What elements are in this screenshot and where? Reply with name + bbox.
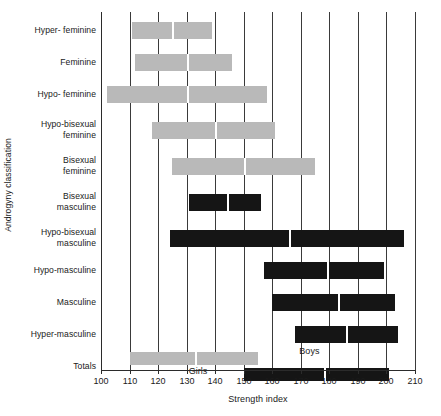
x-tick-label-170: 170 (293, 376, 308, 386)
x-tick-label-150: 150 (236, 376, 251, 386)
x-tick-label-200: 200 (378, 376, 393, 386)
x-tick-label-140: 140 (207, 376, 222, 386)
bar-girls-hypo-bisexual-feminine (152, 122, 275, 139)
x-tick-label-110: 110 (123, 376, 137, 386)
x-tick-label-130: 130 (179, 376, 194, 386)
bar-median-split (215, 122, 217, 139)
category-label: Bisexualmasculine (14, 191, 96, 212)
category-label: Hypo- feminine (14, 89, 96, 100)
x-tick-120 (158, 370, 159, 374)
x-tick-170 (301, 370, 302, 374)
x-tick-140 (215, 370, 216, 374)
x-tick-110 (130, 370, 131, 374)
x-tick-150 (244, 370, 245, 374)
gridline-200 (386, 12, 387, 370)
x-tick-label-180: 180 (321, 376, 336, 386)
bar-median-split (289, 230, 291, 247)
category-label: Hypo-bisexualfeminine (14, 119, 96, 140)
bar-girls-feminine (135, 54, 232, 71)
gridline-150 (244, 12, 245, 370)
bar-boys-masculine (272, 294, 395, 311)
bar-median-split (187, 86, 189, 103)
gridline-190 (358, 12, 359, 370)
bar-median-split (338, 294, 340, 311)
bar-median-split (187, 54, 189, 71)
gridline-180 (329, 12, 330, 370)
bar-median-split (346, 326, 348, 343)
category-label: Feminine (14, 57, 96, 68)
x-axis-rule (101, 370, 415, 371)
x-tick-130 (187, 370, 188, 374)
gridline-210 (415, 12, 416, 370)
gridline-170 (301, 12, 302, 370)
x-tick-100 (101, 370, 102, 374)
x-tick-200 (386, 370, 387, 374)
bar-median-split (195, 352, 197, 365)
bar-median-split (172, 22, 174, 39)
category-label: Hypo-bisexualmasculine (14, 227, 96, 248)
x-tick-label-100: 100 (93, 376, 108, 386)
x-tick-label-120: 120 (150, 376, 165, 386)
x-axis: 100110120130140150160170180190200210 Str… (101, 370, 415, 416)
bar-boys-hypo-masculine (264, 262, 384, 279)
category-label: Hypo-masculine (14, 265, 96, 276)
x-axis-title: Strength index (101, 394, 415, 404)
x-tick-190 (358, 370, 359, 374)
category-axis-labels: Hyper- feminineFeminineHypo- feminineHyp… (14, 12, 96, 370)
x-tick-label-160: 160 (264, 376, 279, 386)
series-tag-boys: Boys (299, 346, 319, 356)
bar-median-split (244, 158, 246, 175)
gridline-110 (130, 12, 131, 370)
y-axis-line (101, 12, 102, 370)
bar-boys-bisexual-masculine (189, 194, 260, 211)
x-tick-160 (272, 370, 273, 374)
bar-girls-hypo-feminine (107, 86, 267, 103)
bar-girls-bisexual-feminine (172, 158, 315, 175)
bar-median-split (227, 194, 229, 211)
category-label: Totals (14, 361, 96, 372)
x-tick-210 (415, 370, 416, 374)
x-tick-label-210: 210 (407, 376, 422, 386)
plot-area: GirlsBoys (101, 12, 415, 370)
category-label: Hyper-masculine (14, 329, 96, 340)
gridline-160 (272, 12, 273, 370)
x-tick-label-190: 190 (350, 376, 365, 386)
category-label: Masculine (14, 297, 96, 308)
bar-median-split (327, 262, 329, 279)
x-tick-180 (329, 370, 330, 374)
y-axis-title-text: Androgyny classification (3, 138, 13, 232)
androgyny-strength-index-chart: Androgyny classification Hyper- feminine… (0, 0, 441, 416)
bar-boys-hypo-bisexual-masculine (170, 230, 404, 247)
bar-boys-hyper-masculine (295, 326, 398, 343)
bar-girls-hyper-feminine (132, 22, 212, 39)
category-label: Hyper- feminine (14, 25, 96, 36)
category-label: Bisexualfeminine (14, 155, 96, 176)
bar-girls-totals (130, 352, 258, 365)
